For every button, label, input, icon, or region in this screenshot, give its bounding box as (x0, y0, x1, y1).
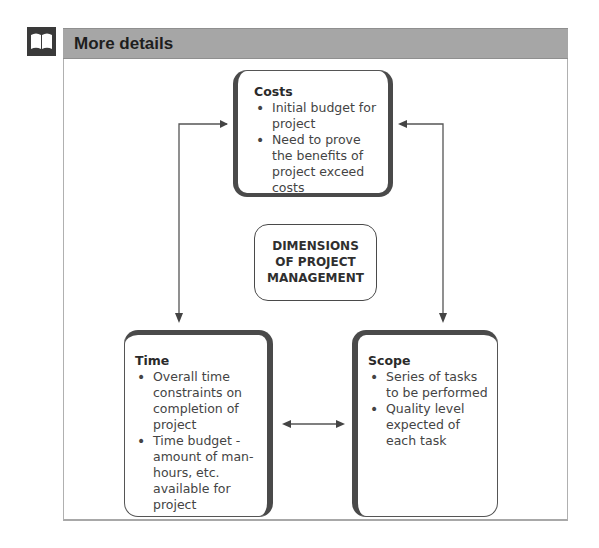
center-line: MANAGEMENT (255, 270, 376, 286)
center-line: DIMENSIONS (255, 238, 376, 254)
time-bullets: Overall time constraints on completion o… (135, 369, 261, 513)
scope-bullets: Series of tasks to be performed Quality … (368, 369, 491, 449)
list-item: Need to prove the benefits of project ex… (254, 132, 378, 196)
scope-title: Scope (368, 353, 491, 369)
arrow-costs-time (179, 124, 227, 319)
costs-box: Costs Initial budget for project Need to… (233, 70, 393, 197)
list-item: Time budget - amount of man-hours, etc. … (135, 433, 261, 513)
time-box: Time Overall time constraints on complet… (124, 330, 273, 517)
arrow-costs-scope (400, 124, 443, 319)
list-item: Series of tasks to be performed (368, 369, 491, 401)
costs-bullets: Initial budget for project Need to prove… (254, 100, 378, 196)
list-item: Initial budget for project (254, 100, 378, 132)
center-box: DIMENSIONS OF PROJECT MANAGEMENT (254, 224, 377, 301)
costs-title: Costs (254, 84, 378, 100)
center-line: OF PROJECT (255, 254, 376, 270)
scope-box: Scope Series of tasks to be performed Qu… (352, 330, 498, 517)
time-title: Time (135, 353, 261, 369)
list-item: Overall time constraints on completion o… (135, 369, 261, 433)
list-item: Quality level expected of each task (368, 401, 491, 449)
